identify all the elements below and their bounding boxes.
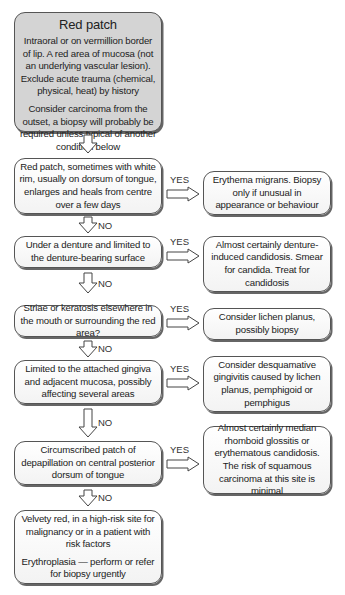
start-title: Red patch <box>59 17 117 33</box>
arrow-down-icon <box>78 489 98 507</box>
arrow-down-icon <box>78 272 98 294</box>
arrow-right-icon <box>166 375 200 391</box>
arrow-right-icon <box>166 248 200 264</box>
start-box-red-patch: Red patch Intraoral or on vermillion bor… <box>14 12 162 132</box>
outcome-text-4: Consider desquamative gingivitis caused … <box>208 359 326 409</box>
outcome-box-5: Almost certainly median rhomboid glossit… <box>203 426 331 494</box>
outcome-text-3: Consider lichen planus, possibly biopsy <box>208 311 326 336</box>
decision-text-1: Red patch, sometimes with white rim, usu… <box>19 161 157 211</box>
decision-box-1: Red patch, sometimes with white rim, usu… <box>14 158 162 214</box>
final-box-erythroplasia: Velvety red, in a high-risk site for mal… <box>14 510 162 584</box>
decision-box-2: Under a denture and limited to the dentu… <box>14 236 162 268</box>
decision-text-2: Under a denture and limited to the dentu… <box>19 239 157 264</box>
arrow-down-icon <box>78 408 98 438</box>
outcome-box-3: Consider lichen planus, possibly biopsy <box>203 308 331 340</box>
arrow-down-icon <box>78 216 98 234</box>
arrow-right-icon <box>166 456 200 472</box>
no-label-4: NO <box>98 417 112 428</box>
arrow-right-icon <box>166 315 200 331</box>
arrow-down-icon <box>78 340 98 358</box>
arrow-right-icon <box>166 186 200 202</box>
decision-text-4: Limited to the attached gingiva and adja… <box>19 363 157 401</box>
no-label-3: NO <box>98 343 112 354</box>
final-text-criteria: Velvety red, in a high-risk site for mal… <box>19 513 157 551</box>
decision-box-4: Limited to the attached gingiva and adja… <box>14 360 162 404</box>
outcome-box-1: Erythema migrans. Biopsy only if unusual… <box>203 171 331 215</box>
outcome-text-2: Almost certainly denture-induced candido… <box>208 239 326 289</box>
arrow-down-icon <box>78 134 98 154</box>
no-label-2: NO <box>98 278 112 289</box>
yes-label-4: YES <box>170 363 189 374</box>
outcome-text-1: Erythema migrans. Biopsy only if unusual… <box>208 174 326 212</box>
outcome-box-4: Consider desquamative gingivitis caused … <box>203 356 331 412</box>
yes-label-2: YES <box>170 236 189 247</box>
yes-label-5: YES <box>170 444 189 455</box>
decision-text-3: Striae or keratosis elsewhere in the mou… <box>19 302 157 340</box>
no-label-1: NO <box>98 220 112 231</box>
no-label-5: NO <box>98 492 112 503</box>
start-description: Intraoral or on vermillion border of lip… <box>19 35 157 98</box>
outcome-box-2: Almost certainly denture-induced candido… <box>203 236 331 292</box>
decision-text-5: Circumscribed patch of depapillation on … <box>19 444 157 482</box>
decision-box-3: Striae or keratosis elsewhere in the mou… <box>14 305 162 337</box>
final-text-action: Erythroplasia — perform or refer for bio… <box>19 556 157 581</box>
outcome-text-5: Almost certainly median rhomboid glossit… <box>208 422 326 498</box>
yes-label-1: YES <box>170 174 189 185</box>
decision-box-5: Circumscribed patch of depapillation on … <box>14 441 162 485</box>
yes-label-3: YES <box>170 303 189 314</box>
